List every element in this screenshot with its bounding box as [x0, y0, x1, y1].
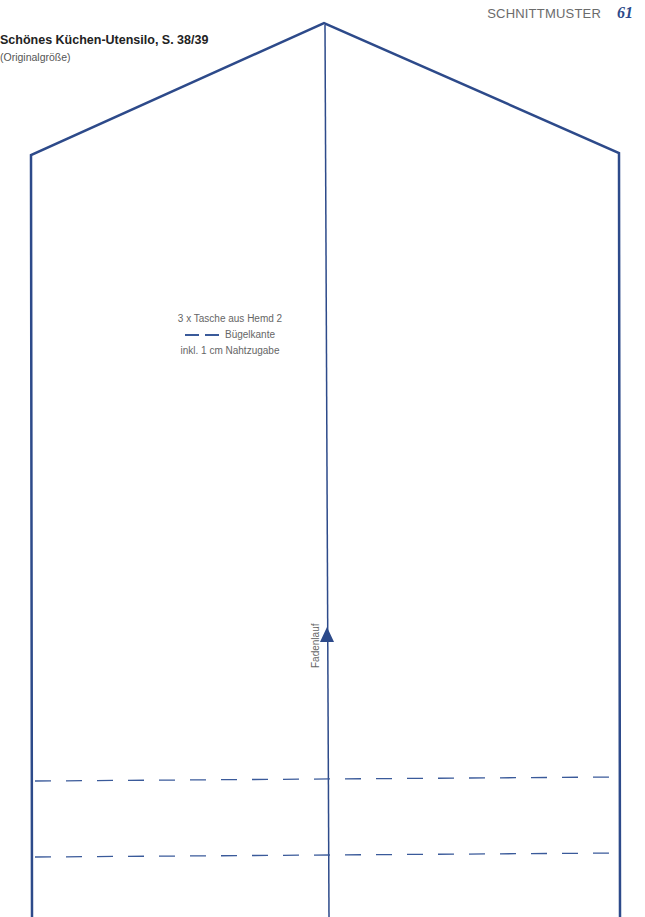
fold-line-upper: [35, 777, 617, 781]
pattern-title: Schönes Küchen-Utensilo, S. 38/39: [0, 33, 208, 47]
dash-icon: [185, 334, 199, 336]
pattern-subtitle: (Originalgröße): [0, 51, 71, 63]
seam-allowance-note: inkl. 1 cm Nahtzugabe: [170, 343, 290, 359]
grainline: [325, 25, 329, 917]
grainline-label: Fadenlauf: [310, 624, 321, 668]
pattern-piece: [0, 0, 645, 917]
fold-line-lower: [35, 853, 620, 857]
piece-cut-instruction: 3 x Tasche aus Hemd 2: [170, 311, 290, 327]
grainline-arrow-icon: [320, 627, 334, 642]
dash-icon: [205, 334, 219, 336]
fold-legend: Bügelkante: [170, 327, 290, 343]
piece-label: 3 x Tasche aus Hemd 2 Bügelkante inkl. 1…: [170, 311, 290, 359]
fold-legend-text: Bügelkante: [225, 327, 275, 343]
